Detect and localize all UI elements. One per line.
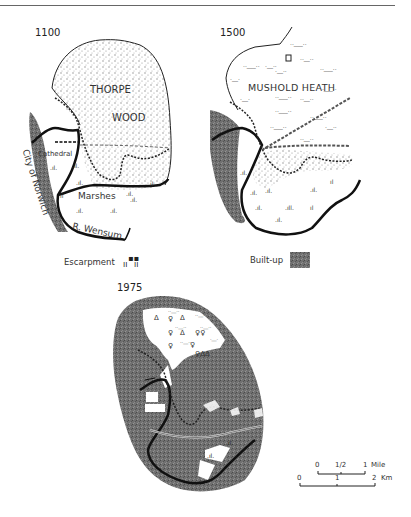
svg-text:Δ: Δ	[180, 314, 185, 322]
scale-mile-unit: Mile	[371, 461, 385, 469]
svg-text:.ıl.: .ıl.	[76, 207, 83, 214]
svg-text:ıl: ıl	[330, 178, 334, 185]
map-1500-year-label: 1500	[220, 27, 245, 38]
svg-text:♀: ♀	[168, 342, 173, 350]
svg-text:.__.: .__.	[230, 74, 240, 82]
svg-text:.ıl.: .ıl.	[130, 196, 137, 203]
scale-bar-miles	[318, 471, 365, 474]
scale-km-tick-0: 0	[297, 474, 301, 482]
scale-mile-tick-1: 1	[363, 461, 367, 469]
svg-text:..__..: ..__..	[200, 323, 212, 330]
svg-text:..___..: ..___..	[310, 112, 327, 120]
svg-text:ıl: ıl	[310, 204, 314, 211]
svg-text:.ıl.: .ıl.	[265, 187, 272, 194]
label-cathedral: Cathedral	[38, 150, 72, 158]
scale-mile-tick-0: 0	[315, 461, 319, 469]
svg-text:♀♀: ♀♀	[195, 329, 205, 337]
legend-builtup-label: Built-up	[250, 255, 283, 265]
svg-text:..__..: ..__..	[300, 54, 314, 62]
svg-text:..___..: ..___..	[270, 122, 287, 130]
map-1975-year-label: 1975	[117, 282, 142, 293]
svg-text:..___..: ..___..	[290, 39, 307, 47]
escarpment-symbol: ıı▪▪ıı	[123, 254, 139, 269]
svg-text:.ıll.: .ıll.	[285, 204, 294, 211]
svg-text:.ıl.: .ıl.	[72, 162, 79, 169]
svg-text:♀: ♀	[168, 329, 173, 337]
label-thorpe: THORPE	[90, 84, 131, 95]
map-1100: .ıl..ıl. .ıl.ıl .ıl.ıl .ıl..ıl. .ıl. .._…	[0, 0, 411, 517]
label-marshes: Marshes	[78, 191, 116, 201]
svg-text:ıı: ıı	[134, 260, 138, 269]
svg-text:..__..: ..__..	[300, 134, 314, 142]
svg-text:..__..: ..__..	[168, 307, 180, 314]
svg-text:.ıl.: .ıl.	[310, 186, 317, 193]
svg-text:♀: ♀	[168, 315, 173, 323]
scale-bar-km	[300, 483, 375, 486]
svg-text:.ıl.: .ıl.	[76, 179, 83, 186]
legend-escarpment-label: Escarpment	[64, 257, 115, 267]
scale-km-tick-1: 1	[335, 474, 339, 482]
svg-text:.ıl.: .ıl.	[50, 164, 57, 171]
svg-text:Δ: Δ	[154, 314, 159, 322]
svg-text:.ıl.: .ıl.	[275, 216, 282, 223]
label-mushold-heath: MUSHOLD HEATH	[248, 82, 335, 93]
svg-text:.__.: .__.	[240, 94, 250, 102]
svg-text:.ıl.: .ıl.	[255, 204, 262, 211]
svg-text:.ıl.: .ıl.	[226, 439, 233, 446]
scale-mile-tick-half: 1/2	[335, 461, 346, 469]
svg-text:ıı: ıı	[123, 260, 127, 269]
svg-text:ıl: ıl	[150, 180, 154, 187]
svg-text:..__..: ..__..	[300, 94, 314, 102]
svg-text:.ıl.: .ıl.	[240, 169, 247, 176]
svg-text:ıl: ıl	[60, 192, 64, 199]
svg-text:..___..: ..___..	[275, 106, 292, 114]
builtup-swatch	[290, 252, 310, 268]
map-1500-wood	[253, 149, 353, 188]
svg-text:.__.: .__.	[210, 335, 219, 342]
svg-text:.ıl.: .ıl.	[250, 189, 257, 196]
svg-text:.__..: .__..	[275, 66, 287, 74]
svg-text:♀ΔΔ: ♀ΔΔ	[195, 350, 210, 358]
scale-km-tick-2: 2	[372, 474, 376, 482]
svg-text:.__..: .__..	[325, 122, 337, 130]
label-wood: WOOD	[112, 112, 145, 123]
svg-text:..___..: ..___..	[320, 64, 337, 72]
svg-text:..___..: ..___..	[275, 92, 292, 100]
svg-text:.ıl.: .ıl.	[207, 452, 214, 459]
svg-text:Δ: Δ	[180, 329, 185, 337]
svg-text:..__..: ..__..	[175, 323, 187, 330]
scale-km-unit: Km	[381, 474, 392, 482]
svg-text:..___..: ..___..	[243, 61, 260, 69]
svg-text:..__..: ..__..	[195, 311, 207, 318]
svg-text:.ıl.: .ıl.	[110, 207, 117, 214]
svg-text:..__..: ..__..	[180, 338, 192, 345]
